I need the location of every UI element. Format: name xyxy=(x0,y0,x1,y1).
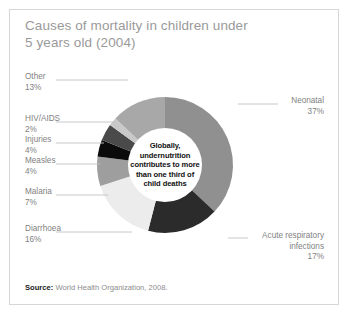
label-measles-name: Measles xyxy=(25,156,56,165)
label-hiv-aids: HIV/AIDS 2% xyxy=(25,114,60,135)
label-malaria: Malaria 7% xyxy=(25,187,52,208)
label-malaria-pct: 7% xyxy=(25,198,52,209)
label-acute-respiratory-infections: Acute respiratory infections 17% xyxy=(262,231,324,263)
label-ari-line2: infections xyxy=(262,242,324,253)
label-other-name: Other xyxy=(25,72,45,81)
label-injuries-name: Injuries xyxy=(25,135,51,144)
label-neonatal-name: Neonatal xyxy=(291,96,324,105)
label-malaria-name: Malaria xyxy=(25,187,52,196)
label-other: Other 13% xyxy=(25,72,45,93)
source-text: World Health Organization, 2008. xyxy=(55,283,167,292)
infographic-figure: Causes of mortality in children under 5 … xyxy=(0,0,348,314)
label-hiv-aids-name: HIV/AIDS xyxy=(25,114,60,123)
label-other-pct: 13% xyxy=(25,83,45,94)
label-injuries: Injuries 4% xyxy=(25,135,51,156)
label-ari-pct: 17% xyxy=(262,252,324,263)
source-note: Source: World Health Organization, 2008. xyxy=(25,283,168,292)
label-ari-line1: Acute respiratory xyxy=(262,231,324,240)
label-neonatal-pct: 37% xyxy=(291,107,324,118)
label-diarrhoea-pct: 16% xyxy=(25,235,61,246)
label-measles-pct: 4% xyxy=(25,167,56,178)
label-neonatal: Neonatal 37% xyxy=(291,96,324,117)
label-injuries-pct: 4% xyxy=(25,146,51,157)
label-diarrhoea-name: Diarrhoea xyxy=(25,224,61,233)
center-annotation: Globally, undernutrition contributes to … xyxy=(127,128,203,202)
label-measles: Measles 4% xyxy=(25,156,56,177)
label-diarrhoea: Diarrhoea 16% xyxy=(25,224,61,245)
source-label: Source: xyxy=(25,283,53,292)
label-hiv-aids-pct: 2% xyxy=(25,125,60,136)
